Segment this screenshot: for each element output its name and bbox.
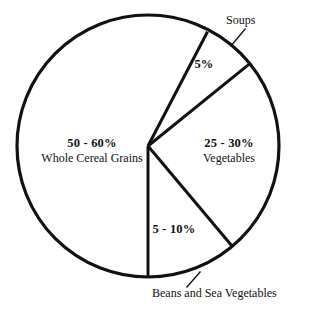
slice-name-vegetables: Vegetables — [176, 151, 282, 165]
slice-percent-whole-cereal-grains: 50 - 60% — [20, 136, 164, 151]
callout-label-soups: Soups — [226, 13, 306, 27]
slice-label-soups-percent: 5% — [181, 57, 227, 72]
slice-label-whole-cereal-grains: 50 - 60% Whole Cereal Grains — [20, 136, 164, 165]
callout-label-beans-and-sea-vegetables: Beans and Sea Vegetables — [152, 286, 313, 300]
slice-name-soups: Soups — [226, 13, 306, 27]
slice-percent-soups: 5% — [181, 57, 227, 72]
slice-label-vegetables: 25 - 30% Vegetables — [176, 136, 282, 165]
leader-line-soups — [231, 29, 246, 47]
slice-percent-beans-and-sea-vegetables: 5 - 10% — [137, 222, 211, 237]
pie-chart: 50 - 60% Whole Cereal Grains 25 - 30% Ve… — [0, 0, 313, 311]
slice-name-beans-and-sea-vegetables: Beans and Sea Vegetables — [152, 286, 313, 300]
slice-label-beans-percent: 5 - 10% — [137, 222, 211, 237]
slice-name-whole-cereal-grains: Whole Cereal Grains — [20, 151, 164, 165]
slice-percent-vegetables: 25 - 30% — [176, 136, 282, 151]
